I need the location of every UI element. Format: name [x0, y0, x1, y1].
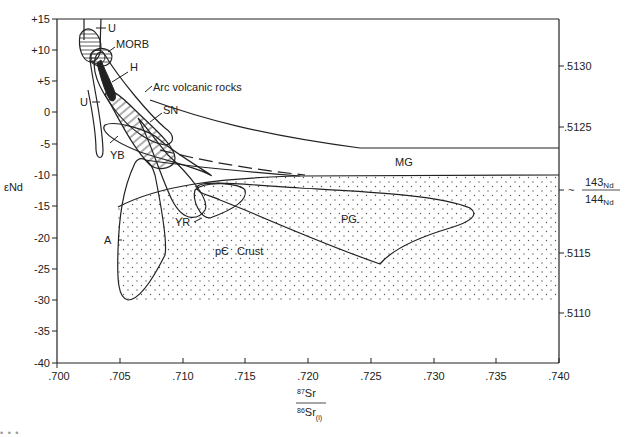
right-axis-label: ~ 143Nd 144Nd: [568, 176, 620, 207]
svg-text:86Sr(i): 86Sr(i): [297, 406, 322, 422]
isotope-chart: +15 +10 +5 0 -5 -10 -15 -20 -25 -30 -35 …: [0, 0, 626, 437]
label-morb: MORB: [116, 38, 149, 50]
y-axis-tick-labels: +15 +10 +5 0 -5 -10 -15 -20 -25 -30 -35 …: [31, 13, 50, 369]
right-tick-label: .5110: [564, 307, 591, 319]
x-tick-label: .710: [172, 370, 193, 382]
y-axis-label: εNd: [4, 181, 23, 193]
x-axis-label: 87Sr 86Sr(i): [296, 387, 326, 422]
label-crust: Crust: [237, 245, 263, 257]
label-u-top: U: [108, 22, 116, 34]
y-tick-label: -5: [40, 138, 50, 150]
y-tick-label: -30: [34, 294, 50, 306]
label-a: A: [104, 234, 112, 246]
field-morb: [79, 29, 111, 66]
tilde: ~: [568, 184, 574, 196]
label-mg: MG: [395, 156, 413, 168]
label-pg: PG.: [341, 213, 360, 225]
x-tick-label: .735: [485, 370, 506, 382]
x-tick-label: .715: [234, 370, 255, 382]
y-tick-label: -35: [34, 325, 50, 337]
y-axis-ticks: [52, 19, 57, 363]
x-tick-label: .740: [548, 370, 569, 382]
x-den-mass: 86: [297, 407, 305, 414]
label-sn: SN: [163, 104, 178, 116]
y-tick-label: -25: [34, 263, 50, 275]
label-precambrian: pЄ: [215, 245, 229, 257]
right-tick-label: .5115: [564, 247, 591, 259]
y-tick-label: -20: [34, 232, 50, 244]
x-tick-label: .730: [423, 370, 444, 382]
label-yb: YB: [110, 149, 125, 161]
y-tick-label: +5: [37, 75, 50, 87]
x-num-element: Sr: [305, 387, 316, 399]
r-num-mass: 143: [585, 176, 603, 188]
svg-text:87Sr: 87Sr: [297, 387, 316, 399]
precambrian-crust-field: [118, 175, 559, 300]
label-u-left: U: [80, 96, 88, 108]
x-den-element: Sr: [305, 406, 316, 418]
r-num-element: Nd: [603, 181, 613, 190]
x-tick-label: .705: [109, 370, 130, 382]
y-tick-label: +15: [31, 13, 50, 25]
svg-text:144Nd: 144Nd: [585, 193, 614, 207]
x-den-subscript: (i): [316, 414, 322, 422]
x-tick-label: .700: [48, 370, 69, 382]
corner-dots: • • •: [0, 428, 19, 437]
y-tick-label: -10: [34, 169, 50, 181]
right-tick-label: .5130: [564, 60, 592, 72]
y-tick-label: 0: [44, 106, 50, 118]
right-tick-label: .5125: [564, 121, 592, 133]
right-axis-ticks: [559, 66, 564, 313]
x-num-mass: 87: [297, 388, 305, 395]
x-axis-tick-labels: .700 .705 .710 .715 .720 .725 .730 .735 …: [48, 370, 569, 382]
y-tick-label: -15: [34, 200, 50, 212]
x-tick-label: .725: [360, 370, 381, 382]
mg-field: [145, 100, 559, 176]
label-yr: YR: [175, 216, 190, 228]
y-tick-label: +10: [31, 44, 50, 56]
label-arc-volcanic-rocks: Arc volcanic rocks: [153, 81, 242, 93]
y-tick-label: -40: [34, 357, 50, 369]
svg-text:143Nd: 143Nd: [585, 176, 614, 190]
r-den-mass: 144: [585, 193, 603, 205]
label-h: H: [130, 61, 138, 73]
r-den-element: Nd: [603, 198, 613, 207]
x-tick-label: .720: [297, 370, 318, 382]
